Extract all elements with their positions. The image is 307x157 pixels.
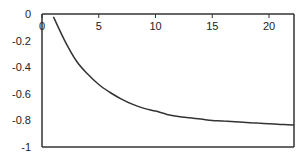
x-tick-label: 5 xyxy=(96,20,102,32)
x-tick-label: 20 xyxy=(263,20,275,32)
y-tick-label: -0.6 xyxy=(12,88,31,100)
y-tick-label: -0.4 xyxy=(12,61,31,73)
plot-area xyxy=(42,14,294,147)
y-tick-label: -0.2 xyxy=(12,35,31,47)
y-tick-label: -0.8 xyxy=(12,114,31,126)
y-axis-ticks: 0-0.2-0.4-0.6-0.8-1 xyxy=(12,8,31,153)
x-tick-label: 0 xyxy=(39,20,45,32)
data-series xyxy=(53,17,294,125)
series-line xyxy=(53,17,294,125)
y-tick-label: -1 xyxy=(21,141,31,153)
x-tick-label: 15 xyxy=(206,20,218,32)
y-tick-label: 0 xyxy=(25,8,31,20)
x-axis-ticks: 05101520 xyxy=(39,14,275,32)
line-chart: 05101520 0-0.2-0.4-0.6-0.8-1 xyxy=(0,0,307,157)
x-tick-label: 10 xyxy=(149,20,161,32)
